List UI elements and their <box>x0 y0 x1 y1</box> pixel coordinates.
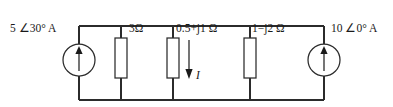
circuit-canvas: I 5 ∠30° A 3Ω 0.5+j1 Ω 1−j2 Ω 10 ∠0° A <box>0 0 393 107</box>
circuit-diagram: I 5 ∠30° A 3Ω 0.5+j1 Ω 1−j2 Ω 10 ∠0° A <box>0 0 393 107</box>
resistor-3-ohm-body <box>115 38 127 78</box>
impedance-1-minus-j2-body <box>244 38 256 78</box>
current-arrow-i-head <box>185 69 192 79</box>
impedance-0p5-plus-j1-label: 0.5+j1 Ω <box>176 22 217 35</box>
current-source-right <box>308 44 340 76</box>
current-source-left-label: 5 ∠30° A <box>10 22 57 34</box>
current-arrow-i-label: I <box>195 69 201 81</box>
current-arrow-i: I <box>185 40 201 81</box>
current-source-left <box>63 44 95 76</box>
impedance-1-minus-j2-label: 1−j2 Ω <box>252 22 285 35</box>
resistor-3-ohm-label: 3Ω <box>129 22 143 34</box>
current-source-right-label: 10 ∠0° A <box>331 22 378 34</box>
impedance-0p5-plus-j1-body <box>167 38 179 78</box>
